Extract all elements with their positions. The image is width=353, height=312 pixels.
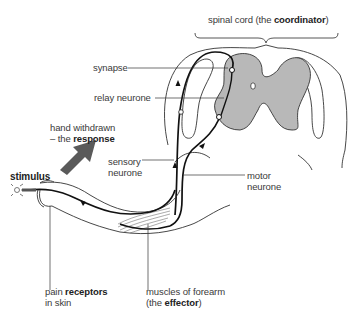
label-line: hand withdrawn [50, 122, 115, 133]
label-line: neurone [108, 167, 142, 178]
label-bold: receptors [65, 286, 107, 297]
motor-neurone-label: motor neurone [247, 170, 281, 192]
response-arrow-icon [60, 140, 96, 175]
sensory-arrow-up [176, 80, 181, 86]
label-text: ) [326, 14, 329, 25]
label-line: (the effector) [146, 297, 225, 308]
label-bold: coordinator [274, 14, 326, 25]
synapse-label: synapse [93, 62, 128, 73]
relay-synapse-marker [217, 115, 222, 120]
sensory-neurone-label: sensory neurone [108, 156, 142, 178]
label-line: motor [247, 170, 281, 181]
spinal-cord-brace [195, 33, 338, 43]
label-line: muscles of forearm [146, 286, 225, 297]
label-line: – the response [50, 133, 115, 144]
label-text: pain [45, 286, 65, 297]
label-text: – the [50, 133, 73, 144]
effector-label: muscles of forearm (the effector) [146, 286, 225, 308]
receptors-label: pain receptors in skin [45, 286, 108, 308]
relay-neurone-label: relay neurone [94, 92, 151, 103]
response-label: hand withdrawn – the response [50, 122, 115, 144]
arm-outline-top [40, 182, 180, 212]
spinal-cord-label: spinal cord (the coordinator) [208, 14, 329, 25]
white-matter-left [182, 59, 213, 138]
central-canal [251, 83, 256, 89]
label-bold: effector [165, 297, 199, 308]
label-text: ) [199, 297, 202, 308]
label-line: pain receptors [45, 286, 108, 297]
label-bold: response [73, 133, 114, 144]
pin-icon [22, 189, 36, 192]
label-text: (the [146, 297, 165, 308]
label-line: in skin [45, 297, 108, 308]
reflex-arc-diagram [0, 0, 353, 312]
label-line: sensory [108, 156, 142, 167]
synapse-marker [230, 68, 235, 73]
label-text: spinal cord (the [208, 14, 274, 25]
sensory-cell-body [179, 110, 184, 115]
label-line: neurone [247, 181, 281, 192]
stimulus-label: stimulus [10, 171, 50, 182]
